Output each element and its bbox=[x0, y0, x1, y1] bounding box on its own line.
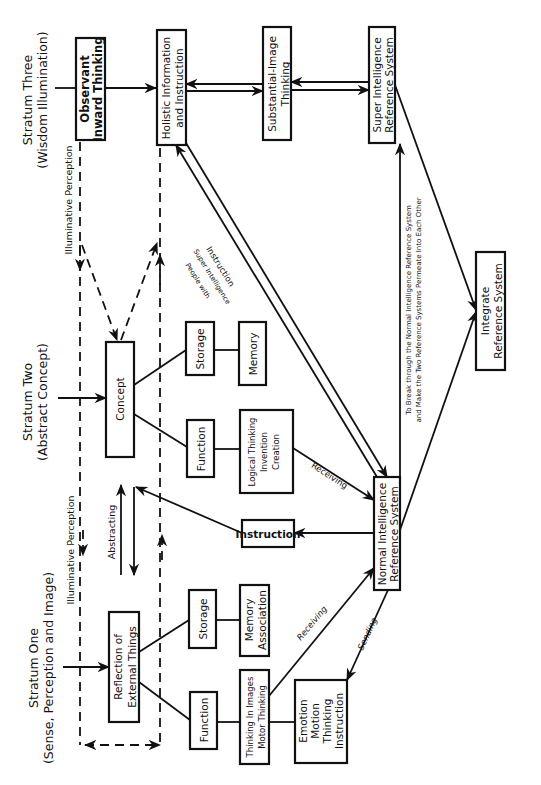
svg-text:External Things: External Things bbox=[126, 626, 138, 708]
svg-text:Memory: Memory bbox=[247, 333, 259, 376]
svg-text:Thinking In Images: Thinking In Images bbox=[245, 676, 255, 758]
svg-text:Instruction: Instruction bbox=[236, 528, 301, 540]
svg-text:Holistic Information: Holistic Information bbox=[160, 37, 172, 140]
box-normal-intelligence: Normal Intelligence Reference System bbox=[374, 477, 400, 590]
svg-text:Storage: Storage bbox=[194, 328, 206, 369]
stratum-one-title: Stratum One bbox=[26, 628, 41, 708]
svg-text:Motor Thinking: Motor Thinking bbox=[257, 685, 267, 749]
box-storage-stratum-two: Storage bbox=[186, 322, 214, 375]
svg-text:Substantial-Image: Substantial-Image bbox=[266, 36, 278, 132]
box-holistic-information: Holistic Information and Instruction bbox=[157, 30, 186, 145]
svg-text:Motion: Motion bbox=[309, 703, 321, 739]
svg-text:Thinking: Thinking bbox=[279, 62, 291, 108]
box-observant-inward-thinking: Observant Inward Thinking bbox=[76, 37, 105, 142]
stratum-one-heading: Stratum One (Sense, Perception and Image… bbox=[26, 572, 56, 764]
svg-text:Function: Function bbox=[198, 698, 210, 743]
stratum-two-subtitle: (Abstract Concept) bbox=[35, 343, 50, 461]
svg-text:Logical Thinking: Logical Thinking bbox=[247, 418, 257, 487]
box-reflection-of-external-things: Reflection of External Things bbox=[109, 612, 139, 722]
svg-text:Reference System: Reference System bbox=[383, 37, 395, 132]
box-substantial-image-thinking: Substantial-Image Thinking bbox=[263, 27, 291, 140]
illuminative-perception-label-top: Illuminative Perception bbox=[63, 146, 74, 255]
box-function-stratum-two: Function bbox=[187, 420, 214, 477]
stratum-one-subtitle: (Sense, Perception and Image) bbox=[41, 572, 56, 764]
sending-label: Sending bbox=[355, 615, 379, 651]
box-storage-stratum-one: Storage bbox=[189, 590, 216, 648]
svg-text:Memory: Memory bbox=[243, 599, 255, 642]
stratum-three-subtitle: (Wisdom Illumination) bbox=[35, 31, 50, 168]
illuminative-perception-label-bottom: Illuminative Perception bbox=[65, 496, 76, 605]
receiving-upper-label: Receiving bbox=[310, 460, 350, 491]
abstracting-label: Abstracting bbox=[106, 505, 117, 560]
svg-text:Integrate: Integrate bbox=[479, 287, 491, 335]
svg-text:Storage: Storage bbox=[197, 598, 209, 639]
svg-text:and Instruction: and Instruction bbox=[173, 48, 185, 127]
reflection-to-storage-line bbox=[139, 620, 189, 652]
svg-text:Thinking: Thinking bbox=[321, 699, 333, 745]
box-concept: Concept bbox=[106, 342, 134, 457]
stratum-two-title: Stratum Two bbox=[20, 363, 35, 441]
reflection-to-function-line bbox=[139, 682, 190, 720]
stratum-three-heading: Stratum Three (Wisdom Illumination) bbox=[20, 31, 50, 168]
instruction-to-concept-arrow bbox=[136, 487, 242, 533]
box-super-intelligence: Super Intelligence Reference System bbox=[369, 27, 395, 143]
break-through-label-1: To Break through the Normal Intelligence… bbox=[405, 205, 413, 416]
break-through-label-2: and Make the Two Reference Systems Perme… bbox=[415, 197, 423, 422]
images-to-normal-arrow bbox=[269, 568, 374, 696]
dashed-diag-from-concept bbox=[121, 243, 157, 340]
svg-text:Function: Function bbox=[195, 427, 207, 472]
svg-text:Normal Intelligence: Normal Intelligence bbox=[376, 483, 388, 585]
svg-text:Inward Thinking: Inward Thinking bbox=[91, 37, 105, 142]
box-integrate-reference-system: Integrate Reference System bbox=[476, 252, 505, 370]
stratum-two-heading: Stratum Two (Abstract Concept) bbox=[20, 343, 50, 461]
box-emotion-motion: Emotion Motion Thinking Instruction bbox=[295, 680, 347, 763]
box-memory-stratum-two: Memory bbox=[239, 322, 266, 385]
svg-text:Super Intelligence: Super Intelligence bbox=[371, 37, 383, 132]
box-memory-association: Memory Association bbox=[240, 585, 269, 656]
svg-text:Emotion: Emotion bbox=[297, 699, 309, 742]
dashed-diag-to-concept bbox=[82, 245, 117, 340]
stratum-three-title: Stratum Three bbox=[20, 54, 35, 145]
diagram-canvas: Stratum Three (Wisdom Illumination) Stra… bbox=[0, 0, 541, 785]
svg-text:Concept: Concept bbox=[114, 377, 126, 420]
box-logical-thinking: Logical Thinking Invention Creation bbox=[240, 410, 293, 493]
svg-text:Association: Association bbox=[256, 590, 268, 650]
svg-text:Reflection of: Reflection of bbox=[112, 634, 124, 700]
box-instruction: Instruction bbox=[236, 520, 301, 547]
svg-text:Creation: Creation bbox=[271, 434, 281, 470]
svg-text:Reference System: Reference System bbox=[492, 263, 504, 358]
svg-text:Invention: Invention bbox=[259, 432, 269, 472]
receiving-lower-label: Receiving bbox=[295, 603, 330, 642]
svg-text:Observant: Observant bbox=[78, 55, 92, 123]
svg-text:Reference System: Reference System bbox=[388, 486, 400, 581]
box-thinking-in-images: Thinking In Images Motor Thinking bbox=[240, 670, 269, 764]
box-function-stratum-one: Function bbox=[190, 692, 217, 749]
svg-text:Instruction: Instruction bbox=[333, 693, 345, 749]
